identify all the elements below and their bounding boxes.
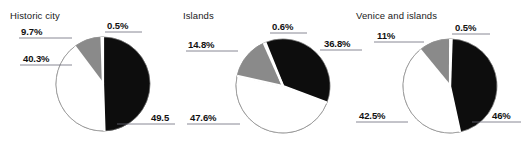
pie-value-label: 0.5% — [455, 22, 476, 33]
chart-title: Venice and islands — [356, 10, 437, 21]
pie-value-label: 46% — [492, 110, 511, 121]
pie-chart-figure: Historic city0.5%49.540.3%9.7%Islands0.6… — [0, 0, 521, 155]
pie-panel: Venice and islands0.5%46%42.5%11% — [0, 0, 521, 155]
pie-value-label: 11% — [377, 30, 395, 41]
pie-graphic — [0, 0, 521, 155]
pie-value-label: 42.5% — [359, 110, 385, 121]
